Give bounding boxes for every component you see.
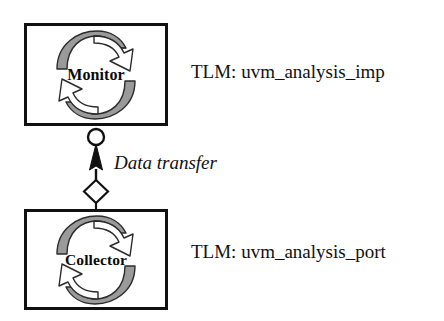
connector-label-data-transfer: Data transfer	[114, 152, 217, 174]
tlm-annotation-collector: TLM: uvm_analysis_port	[191, 241, 386, 263]
component-inner-monitor: Monitor	[27, 26, 165, 123]
component-inner-collector: Collector	[27, 212, 165, 307]
component-box-monitor[interactable]: Monitor	[24, 23, 168, 126]
component-label-monitor: Monitor	[27, 67, 165, 83]
component-box-collector[interactable]: Collector	[24, 209, 168, 310]
diagram-canvas: Monitor TLM: uvm_analysis_imp Data trans…	[0, 0, 444, 321]
connector-data-transfer[interactable]	[72, 123, 120, 213]
connector-socket-circle	[88, 129, 104, 145]
tlm-annotation-monitor: TLM: uvm_analysis_imp	[191, 61, 385, 83]
component-label-collector: Collector	[27, 252, 165, 268]
connector-arrowhead	[90, 144, 103, 170]
connector-diamond	[84, 180, 108, 203]
